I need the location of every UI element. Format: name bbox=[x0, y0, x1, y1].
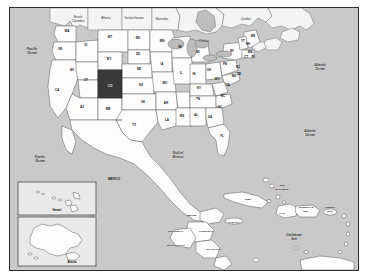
state-label-ct: CT bbox=[244, 55, 248, 59]
state-label-mo: MO bbox=[163, 81, 168, 85]
island-label-dominican-rep-2: REP. bbox=[303, 210, 309, 213]
caribbean-islands bbox=[224, 178, 354, 270]
inset-hawaii[interactable]: Hawaii bbox=[18, 182, 96, 215]
state-label-nh: NH bbox=[246, 42, 250, 46]
island-label-haiti: HAITI bbox=[279, 212, 286, 215]
state-label-in: IN bbox=[193, 72, 196, 76]
inset-label-hawaii: Hawaii bbox=[53, 208, 62, 212]
island-label-jamaica: JAMAICA bbox=[228, 221, 240, 224]
island-label-the-bahamas-2: BAHAMAS bbox=[276, 188, 289, 191]
state-label-ut: UT bbox=[84, 78, 88, 82]
inset-label-alaska: Alaska bbox=[67, 260, 76, 264]
island-label-the-bahamas: THE bbox=[280, 184, 285, 187]
state-label-tn: TN bbox=[196, 97, 200, 101]
state-label-ks: KS bbox=[139, 83, 143, 87]
country-label-belize: BELIZE bbox=[188, 214, 197, 217]
state-label-vt: VT bbox=[241, 39, 245, 43]
inset-alaska[interactable]: Alaska bbox=[18, 217, 96, 266]
country-label-mexico: MEXICO bbox=[108, 177, 121, 181]
country-label-guatemala: GUATEMALA bbox=[168, 230, 184, 233]
ocean-label-atlantic-south-2: Ocean bbox=[305, 133, 315, 137]
province-label-saskatchewan: Saskatchewan bbox=[124, 16, 144, 20]
state-label-oh: OH bbox=[207, 68, 212, 72]
state-label-tx: TX bbox=[132, 123, 136, 127]
island-label-dominican-rep: DOMINICAN bbox=[299, 206, 314, 209]
state-label-ny: NY bbox=[230, 49, 234, 53]
state-label-wy: WY bbox=[107, 57, 112, 61]
state-label-mt: MT bbox=[108, 35, 112, 39]
state-label-wi: WI bbox=[178, 45, 182, 49]
ocean-label-pacific-north-2: Ocean bbox=[27, 51, 37, 55]
island-label-puerto-rico: PUERTO bbox=[325, 206, 335, 209]
country-label-honduras: HONDURAS bbox=[199, 230, 214, 233]
state-label-ri: RI bbox=[252, 55, 255, 59]
state-label-al: AL bbox=[194, 113, 198, 117]
province-label-british-columbia-2: Columbia bbox=[72, 19, 85, 23]
highlighted-state-colorado[interactable]: CO bbox=[98, 70, 122, 98]
province-label-quebec: Quebec bbox=[241, 17, 252, 21]
ocean-label-atlantic-north-2: Ocean bbox=[315, 67, 325, 71]
state-label-az: AZ bbox=[80, 105, 84, 109]
state-label-de: DE bbox=[237, 72, 241, 76]
country-label-el-salvador: EL SALVADOR bbox=[167, 244, 185, 247]
ocean-label-caribbean-sea-2: Sea bbox=[291, 237, 297, 241]
country-label-nicaragua: NICARAGUA bbox=[206, 248, 221, 251]
ocean-label-pacific-south-2: Ocean bbox=[35, 159, 45, 163]
state-label-il: IL bbox=[180, 71, 183, 75]
state-label-fl: FL bbox=[220, 134, 224, 138]
highlight-state-label: CO bbox=[108, 84, 113, 88]
state-label-mn: MN bbox=[160, 39, 165, 43]
state-label-ne: NE bbox=[137, 67, 141, 71]
island-label-cuba: CUBA bbox=[244, 198, 251, 201]
map-canvas: CO British Columbia Alberta bbox=[9, 7, 359, 271]
province-label-manitoba: Manitoba bbox=[156, 17, 169, 21]
province-label-alberta: Alberta bbox=[101, 16, 111, 20]
island-label-puerto-rico-2: RICO bbox=[327, 210, 333, 213]
state-label-ky: KY bbox=[197, 86, 201, 90]
state-label-wv: WV bbox=[215, 77, 220, 81]
province-label-ontario: Ontario bbox=[199, 39, 209, 43]
state-label-wa: WA bbox=[65, 29, 71, 33]
state-label-ma: MA bbox=[248, 50, 253, 54]
state-label-md: MD bbox=[232, 74, 237, 78]
state-label-nj: NJ bbox=[236, 65, 240, 69]
state-label-nv: NV bbox=[70, 68, 74, 72]
state-label-ms: MS bbox=[180, 114, 185, 118]
state-label-mi: MI bbox=[196, 50, 199, 54]
state-label-nm: NM bbox=[106, 107, 111, 111]
state-label-me: ME bbox=[251, 34, 256, 38]
ocean-label-gulf-of-mexico-2: Mexico bbox=[173, 155, 184, 159]
